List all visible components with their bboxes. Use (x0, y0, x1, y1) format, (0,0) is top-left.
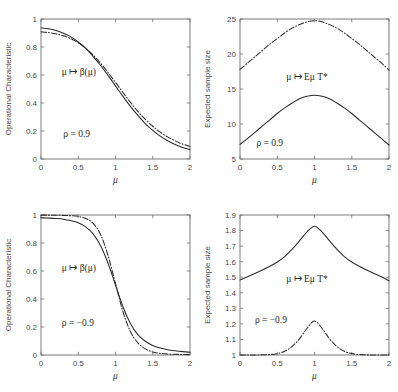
x-tick-label: 0 (238, 359, 243, 368)
curve-dashdot (240, 21, 389, 70)
plot-area-top-right: 00.511.52510152025μExpected sample sizeμ… (199, 0, 398, 196)
x-axis-title: μ (311, 175, 317, 185)
x-axis-title: μ (112, 175, 118, 185)
y-tick-label: 0 (33, 155, 38, 164)
subplot-top-right: 00.511.52510152025μExpected sample sizeμ… (199, 0, 398, 196)
y-tick-label: 0.6 (26, 71, 38, 80)
y-tick-label: 0.2 (26, 127, 38, 136)
x-tick-label: 0 (39, 163, 44, 172)
y-tick-label: 15 (227, 85, 236, 94)
y-tick-label: 1.6 (225, 258, 237, 267)
plot-area-bottom-right: 00.511.5211.11.21.31.41.51.61.71.81.9μEx… (199, 196, 398, 392)
x-tick-label: 1.5 (147, 163, 159, 172)
y-axis-title: Operational Characteristic (4, 239, 13, 331)
x-tick-label: 2 (188, 163, 193, 172)
x-tick-label: 2 (387, 163, 392, 172)
y-tick-label: 1.8 (225, 226, 237, 235)
x-tick-label: 2 (188, 359, 193, 368)
y-tick-label: 0.8 (26, 239, 38, 248)
x-axis-title: μ (112, 371, 118, 381)
x-tick-label: 2 (387, 359, 392, 368)
y-axis-title: Expected sample size (203, 50, 212, 128)
x-tick-label: 1 (312, 359, 317, 368)
subplot-bottom-right: 00.511.5211.11.21.31.41.51.61.71.81.9μEx… (199, 196, 398, 392)
x-tick-label: 1.5 (346, 163, 358, 172)
y-tick-label: 1.5 (225, 273, 237, 282)
y-tick-label: 25 (227, 15, 236, 24)
y-tick-label: 1 (33, 15, 38, 24)
subplot-bottom-left: 00.511.5200.20.40.60.81μOperational Char… (0, 196, 199, 392)
x-tick-label: 1.5 (147, 359, 159, 368)
curve-dashdot (240, 321, 389, 355)
annotation-function: μ ↦ Eμ T* (286, 274, 328, 284)
y-tick-label: 1.7 (225, 242, 237, 251)
axes-frame (240, 215, 389, 355)
x-tick-label: 0 (39, 359, 44, 368)
y-tick-label: 1.4 (225, 289, 237, 298)
annotation-rho: ρ = 0.9 (256, 138, 283, 148)
y-axis-title: Expected sample size (203, 246, 212, 324)
curve-solid (240, 226, 389, 281)
x-tick-label: 0.5 (73, 359, 85, 368)
x-tick-label: 1 (113, 163, 118, 172)
y-tick-label: 0.8 (26, 43, 38, 52)
annotation-rho: ρ = −0.9 (62, 318, 94, 328)
annotation-function: μ ↦ Eμ T* (286, 72, 328, 82)
annotation-rho: ρ = −0.9 (255, 315, 287, 325)
y-axis-title: Operational Characteristic (4, 43, 13, 135)
y-tick-label: 1.3 (225, 304, 237, 313)
y-tick-label: 20 (227, 50, 236, 59)
y-tick-label: 1.2 (225, 320, 237, 329)
y-tick-label: 1.9 (225, 211, 237, 220)
curve-dashdot (41, 215, 190, 354)
y-tick-label: 5 (232, 155, 237, 164)
x-tick-label: 1.5 (346, 359, 358, 368)
x-tick-label: 1 (113, 359, 118, 368)
x-tick-label: 0.5 (272, 359, 284, 368)
x-tick-label: 1 (312, 163, 317, 172)
y-tick-label: 0.4 (26, 99, 38, 108)
figure-canvas: 00.511.5200.20.40.60.81μOperational Char… (0, 0, 398, 392)
x-tick-label: 0.5 (73, 163, 85, 172)
y-tick-label: 1.1 (225, 335, 237, 344)
annotation-function: μ ↦ β(μ) (62, 263, 96, 274)
y-tick-label: 10 (227, 120, 236, 129)
x-tick-label: 0 (238, 163, 243, 172)
y-tick-label: 0.4 (26, 295, 38, 304)
x-tick-label: 0.5 (272, 163, 284, 172)
y-tick-label: 1 (33, 211, 38, 220)
plot-area-top-left: 00.511.5200.20.40.60.81μOperational Char… (0, 0, 199, 196)
plot-area-bottom-left: 00.511.5200.20.40.60.81μOperational Char… (0, 196, 199, 392)
subplot-top-left: 00.511.5200.20.40.60.81μOperational Char… (0, 0, 199, 196)
annotation-rho: ρ = 0.9 (63, 129, 90, 139)
y-tick-label: 0 (33, 351, 38, 360)
y-tick-label: 0.6 (26, 267, 38, 276)
y-tick-label: 0.2 (26, 323, 38, 332)
annotation-function: μ ↦ β(μ) (62, 67, 96, 78)
x-axis-title: μ (311, 371, 317, 381)
y-tick-label: 1 (232, 351, 237, 360)
